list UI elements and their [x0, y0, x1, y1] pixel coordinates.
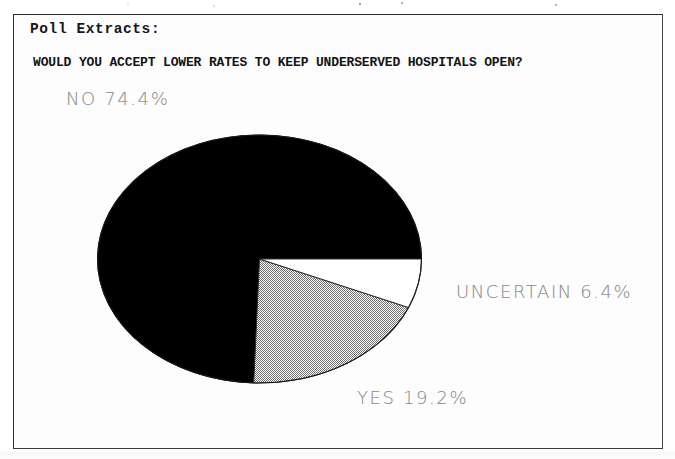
- poll-question-headline: WOULD YOU ACCEPT LOWER RATES TO KEEP UND…: [33, 55, 522, 70]
- scan-noise-top: [0, 0, 675, 12]
- pie-label-yes: YES 19.2%: [357, 387, 468, 408]
- section-title: Poll Extracts:: [30, 21, 160, 37]
- pie-label-uncertain: UNCERTAIN 6.4%: [456, 281, 632, 302]
- extract-frame: [13, 14, 663, 449]
- screenshot-page: Poll Extracts: WOULD YOU ACCEPT LOWER RA…: [0, 0, 675, 459]
- pie-label-no: NO 74.4%: [66, 88, 169, 109]
- scan-noise-bottom: [0, 452, 675, 459]
